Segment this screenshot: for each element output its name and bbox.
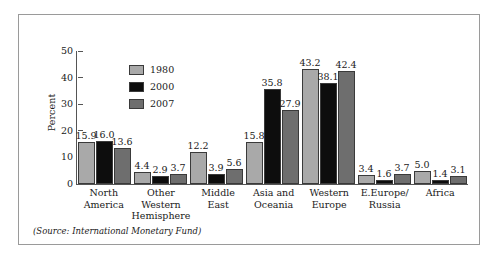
bar-2007: 3.7: [394, 51, 411, 184]
bar-2007: 27.9: [282, 51, 299, 184]
chart-legend: 198020002007: [129, 61, 209, 112]
category-label-line: E.Europe/: [357, 187, 413, 199]
bar-value-label: 3.4: [358, 164, 373, 174]
category-label: WesternEurope: [301, 187, 357, 222]
category-label-line: America: [76, 199, 132, 211]
bar-value-label: 3.9: [208, 163, 223, 173]
legend-label: 2007: [150, 99, 174, 109]
category-label-line: Africa: [412, 187, 468, 199]
legend-swatch: [129, 65, 144, 75]
source-note: (Source: International Monetary Fund): [33, 226, 201, 236]
category-label: Africa: [412, 187, 468, 222]
bar-1980: 3.4: [358, 51, 375, 184]
bar-2000: 35.8: [264, 51, 281, 184]
category-label-line: Russia: [357, 199, 413, 211]
bar-rect: [358, 175, 375, 184]
bar-chart: Percent 50403020100 15.916.013.64.42.93.…: [19, 15, 481, 246]
bar-rect: [114, 148, 131, 184]
x-axis-category-labels: NorthAmericaOtherWesternHemisphereMiddle…: [76, 187, 468, 222]
bar-value-label: 3.7: [170, 163, 185, 173]
bar-1980: 15.9: [78, 51, 95, 184]
bar-value-label: 4.4: [134, 161, 149, 171]
category-label-line: Middle: [190, 187, 246, 199]
bar-value-label: 3.7: [394, 163, 409, 173]
bar-1980: 43.2: [302, 51, 319, 184]
bar-rect: [282, 110, 299, 184]
legend-swatch: [129, 99, 144, 109]
bar-value-label: 35.8: [261, 78, 282, 88]
legend-label: 1980: [150, 65, 174, 75]
bar-rect: [320, 83, 337, 184]
bar-value-label: 38.1: [317, 72, 338, 82]
category-label-line: Other: [132, 187, 191, 199]
bar-2000: 38.1: [320, 51, 337, 184]
bar-rect: [264, 89, 281, 184]
bar-rect: [96, 141, 113, 184]
x-axis-line: [76, 184, 468, 185]
bar-value-label: 5.6: [226, 158, 241, 168]
bar-value-label: 1.4: [432, 169, 447, 179]
y-tick-label: 0: [67, 179, 73, 189]
bar-value-label: 27.9: [279, 99, 300, 109]
category-label: E.Europe/Russia: [357, 187, 413, 222]
category-label: MiddleEast: [190, 187, 246, 222]
bar-value-label: 13.6: [111, 137, 132, 147]
bar-group: 5.01.43.1: [412, 51, 468, 184]
bar-rect: [190, 152, 207, 184]
bar-2000: 3.9: [208, 51, 225, 184]
y-tick-label: 50: [61, 46, 73, 56]
category-label-line: East: [190, 199, 246, 211]
bar-group: 15.835.827.9: [244, 51, 300, 184]
bar-rect: [414, 171, 431, 184]
bar-rect: [338, 71, 355, 184]
bar-2007: 5.6: [226, 51, 243, 184]
category-label-line: Asia and: [246, 187, 302, 199]
legend-item-2000: 2000: [129, 78, 209, 95]
bar-2007: 13.6: [114, 51, 131, 184]
y-tick-label: 40: [61, 73, 73, 83]
bar-value-label: 12.2: [187, 141, 208, 151]
bar-2007: 42.4: [338, 51, 355, 184]
category-label: OtherWesternHemisphere: [132, 187, 191, 222]
legend-label: 2000: [150, 82, 174, 92]
category-label-line: Oceania: [246, 199, 302, 211]
bar-value-label: 1.6: [376, 169, 391, 179]
bar-rect: [432, 180, 449, 184]
bar-rect: [376, 180, 393, 184]
category-label: NorthAmerica: [76, 187, 132, 222]
category-label-line: North: [76, 187, 132, 199]
bar-2000: 1.4: [432, 51, 449, 184]
bar-rect: [246, 142, 263, 184]
category-label-line: Western: [132, 199, 191, 211]
bar-value-label: 43.2: [299, 58, 320, 68]
figure-frame: Percent 50403020100 15.916.013.64.42.93.…: [18, 14, 480, 245]
legend-swatch: [129, 82, 144, 92]
bar-rect: [134, 172, 151, 184]
bar-rect: [450, 176, 467, 184]
bar-value-label: 2.9: [152, 165, 167, 175]
bar-2007: 3.1: [450, 51, 467, 184]
category-label-line: Western: [301, 187, 357, 199]
bar-rect: [226, 169, 243, 184]
category-label: Asia andOceania: [246, 187, 302, 222]
legend-item-2007: 2007: [129, 95, 209, 112]
y-tick-label: 20: [61, 126, 73, 136]
bar-value-label: 3.1: [450, 165, 465, 175]
bar-rect: [208, 174, 225, 184]
bar-value-label: 5.0: [414, 160, 429, 170]
bar-1980: 5.0: [414, 51, 431, 184]
bar-rect: [78, 142, 95, 184]
bar-2000: 16.0: [96, 51, 113, 184]
bar-2000: 1.6: [376, 51, 393, 184]
bar-rect: [152, 176, 169, 184]
bar-value-label: 15.8: [243, 131, 264, 141]
bar-rect: [302, 69, 319, 184]
category-label-line: Europe: [301, 199, 357, 211]
legend-item-1980: 1980: [129, 61, 209, 78]
bar-1980: 15.8: [246, 51, 263, 184]
y-tick-label: 30: [61, 99, 73, 109]
bar-rect: [170, 174, 187, 184]
y-axis-label: Percent: [46, 73, 57, 153]
bar-group: 15.916.013.6: [76, 51, 132, 184]
bar-value-label: 42.4: [335, 60, 356, 70]
